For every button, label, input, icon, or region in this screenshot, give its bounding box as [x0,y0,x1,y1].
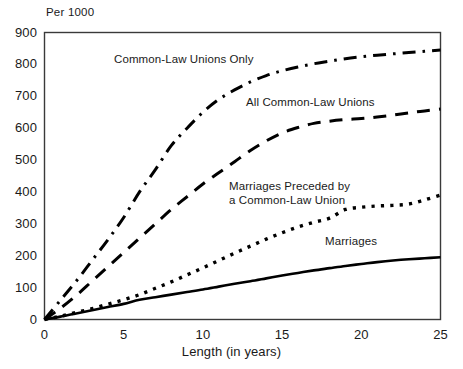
series-label-line-2: a Common-Law Union [229,194,345,206]
y-tick-label: 800 [1,56,37,71]
y-axis-unit-label: Per 1000 [46,6,94,18]
x-tick-label: 10 [183,327,223,342]
x-tick-label: 20 [341,327,381,342]
y-tick-label: 400 [1,184,37,199]
y-tick-label: 100 [1,280,37,295]
chart-figure: Per 1000 0100200300400500600700800900 05… [0,0,463,369]
y-tick-label: 500 [1,152,37,167]
y-tick-label: 700 [1,88,37,103]
series-label-marriages-preceded-by-a-common-law-union: Marriages Preceded bya Common-Law Union [229,180,350,207]
y-tick-label: 0 [1,312,37,327]
series-label-common-law-unions-only: Common-Law Unions Only [114,53,254,67]
y-tick-label: 200 [1,248,37,263]
series-label-all-common-law-unions: All Common-Law Unions [246,96,375,110]
x-tick-label: 25 [421,327,461,342]
y-tick-label: 900 [1,25,37,40]
x-axis-title: Length (in years) [0,344,463,359]
x-tick-label: 15 [262,327,302,342]
series-label-line-1: Marriages Preceded by [229,180,350,192]
x-tick-label: 0 [25,327,65,342]
x-tick-label: 5 [104,327,144,342]
series-label-marriages: Marriages [325,235,377,249]
y-tick-label: 300 [1,216,37,231]
y-tick-label: 600 [1,120,37,135]
